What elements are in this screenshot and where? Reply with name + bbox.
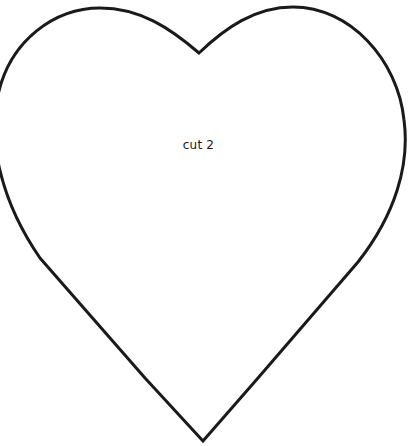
- heart-outline-icon: [0, 0, 408, 446]
- cut-instruction-label: cut 2: [0, 138, 397, 152]
- heart-template: cut 2: [0, 0, 408, 446]
